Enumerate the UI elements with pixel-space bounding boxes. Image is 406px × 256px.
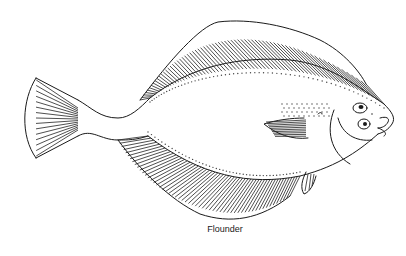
figure-caption: Flounder [0, 224, 406, 234]
anal-fin [118, 136, 300, 219]
pelvic-fin [302, 172, 316, 194]
nostril [318, 113, 322, 115]
dorsal-fin [140, 21, 384, 104]
caudal-fin [25, 78, 78, 158]
fish-body [78, 59, 394, 179]
flounder-illustration [0, 0, 406, 256]
mouth [371, 113, 388, 136]
eyes [353, 103, 370, 129]
pectoral-fin [264, 118, 308, 138]
